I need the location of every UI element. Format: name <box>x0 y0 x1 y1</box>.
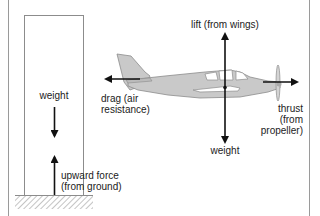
force-diagram: weight upward force (from ground) lift (… <box>0 0 320 216</box>
window-mid <box>219 70 233 80</box>
airplane-weight-label: weight <box>205 145 245 157</box>
fuselage <box>128 70 280 98</box>
building-weight-label: weight <box>34 90 74 102</box>
drag-label-line2: resistance) <box>101 104 150 116</box>
upward-force-label-line2: (from ground) <box>61 181 122 193</box>
thrust-label-line3: propeller) <box>253 125 303 137</box>
ground-hatch <box>15 195 93 209</box>
center-of-gravity-dot <box>223 86 227 90</box>
lift-label: lift (from wings) <box>185 19 265 31</box>
airplane <box>117 54 282 101</box>
